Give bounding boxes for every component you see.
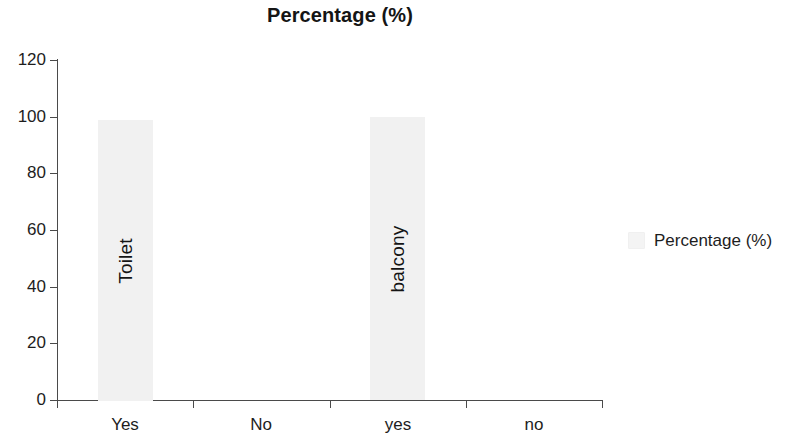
y-axis-tick xyxy=(50,287,57,288)
y-axis-tick-label: 0 xyxy=(2,391,46,408)
x-axis-tick xyxy=(193,400,194,408)
y-axis-tick-label: 60 xyxy=(2,221,46,238)
x-axis-tick-label: no xyxy=(467,414,601,435)
y-axis-tick xyxy=(50,117,57,118)
y-axis-tick xyxy=(50,230,57,231)
y-axis-tick-label: 120 xyxy=(2,51,46,68)
y-axis-tick-label: 100 xyxy=(2,108,46,125)
bar-label: Toilet xyxy=(115,238,137,284)
x-axis-tick xyxy=(602,400,603,408)
chart-title: Percentage (%) xyxy=(0,4,680,27)
bar-label: balcony xyxy=(387,225,409,292)
x-axis-tick xyxy=(57,400,58,408)
x-axis-tick-label: Yes xyxy=(58,414,192,435)
y-axis-tick-label: 20 xyxy=(2,334,46,351)
x-axis-tick-label: No xyxy=(194,414,328,435)
x-axis-tick-label: yes xyxy=(331,414,465,435)
legend-label-percentage: Percentage (%) xyxy=(654,232,772,249)
x-axis-tick xyxy=(330,400,331,408)
x-axis-tick xyxy=(466,400,467,408)
y-axis-tick-label: 40 xyxy=(2,278,46,295)
y-axis-tick-label: 80 xyxy=(2,164,46,181)
legend-swatch-percentage xyxy=(628,232,645,249)
chart-legend: Percentage (%) xyxy=(628,232,772,249)
y-axis-tick xyxy=(50,60,57,61)
y-axis-tick xyxy=(50,173,57,174)
bar-chart: Percentage (%) 020406080100120 YesNoyesn… xyxy=(0,0,803,444)
y-axis-spine xyxy=(57,59,58,401)
bar-yes-2: balcony xyxy=(370,117,425,400)
y-axis-tick xyxy=(50,343,57,344)
bar-yes-0: Toilet xyxy=(98,120,153,401)
y-axis-tick xyxy=(50,400,57,401)
